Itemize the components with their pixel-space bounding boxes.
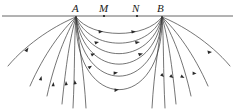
electrode-label-B: B	[157, 3, 164, 14]
interior-flow-arcs	[76, 17, 162, 92]
electrode-dot-M	[103, 15, 105, 17]
electrode-label-M: M	[99, 3, 108, 14]
left-exterior-flow-lines	[8, 17, 86, 108]
electrode-label-A: A	[72, 3, 79, 14]
resistivity-current-flow-diagram: .fl{fill:none;stroke:#3a3a3a;stroke-widt…	[0, 0, 235, 112]
right-exterior-flow-lines	[152, 17, 230, 108]
electrode-dot-N	[136, 15, 138, 17]
diagram-canvas: .fl{fill:none;stroke:#3a3a3a;stroke-widt…	[0, 0, 235, 112]
electrode-label-N: N	[132, 3, 139, 14]
